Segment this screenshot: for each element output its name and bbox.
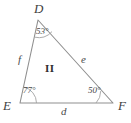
triangle-figure: D E F 53° 77° 50° f e d II: [0, 0, 131, 123]
angle-label-f: 50°: [88, 86, 101, 95]
vertex-label-d: D: [34, 2, 43, 15]
side-label-f: f: [18, 54, 21, 65]
angle-label-d: 53°: [36, 27, 49, 36]
side-label-e: e: [81, 54, 86, 65]
angle-label-e: 77°: [23, 86, 36, 95]
side-label-d: d: [61, 106, 67, 117]
region-label: II: [45, 63, 55, 74]
vertex-label-e: E: [3, 99, 11, 112]
vertex-label-f: F: [118, 99, 126, 112]
